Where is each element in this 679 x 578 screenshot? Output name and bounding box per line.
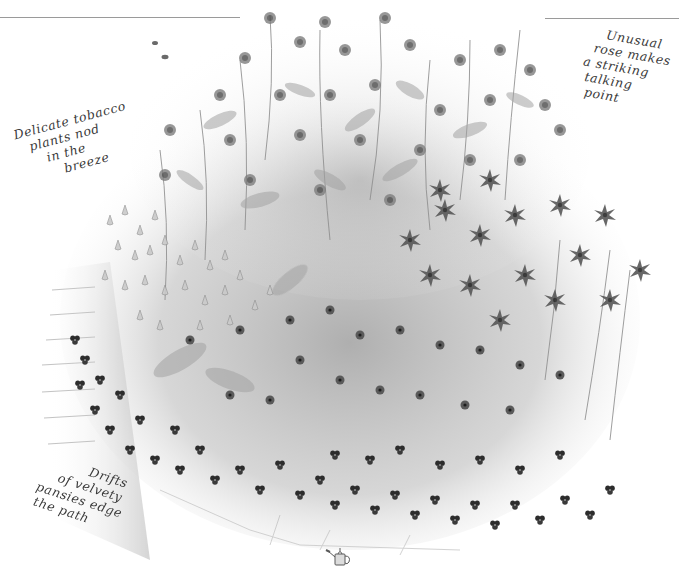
caption-rose: Unusual rose makes a striking talking po… [577, 24, 675, 113]
bee-icon [152, 41, 169, 59]
illustrated-page: Unusual rose makes a striking talking po… [0, 0, 679, 578]
watering-can-icon [325, 546, 353, 568]
